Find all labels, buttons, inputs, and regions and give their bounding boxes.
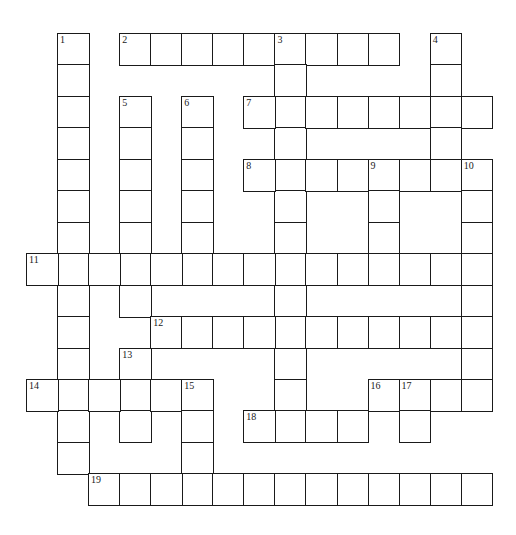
crossword-cell[interactable] — [150, 473, 183, 506]
crossword-cell[interactable] — [368, 96, 401, 129]
crossword-cell[interactable] — [430, 316, 463, 349]
crossword-cell[interactable] — [305, 316, 338, 349]
crossword-cell[interactable] — [119, 253, 152, 286]
crossword-cell[interactable]: 12 — [150, 316, 183, 349]
crossword-cell[interactable]: 11 — [26, 253, 59, 286]
crossword-cell[interactable] — [181, 127, 214, 160]
crossword-cell[interactable] — [337, 473, 370, 506]
crossword-cell[interactable] — [181, 253, 214, 286]
crossword-cell[interactable] — [57, 96, 90, 129]
crossword-cell[interactable] — [57, 222, 90, 255]
crossword-cell[interactable] — [88, 379, 121, 412]
crossword-cell[interactable] — [430, 253, 463, 286]
crossword-cell[interactable] — [305, 473, 338, 506]
crossword-cell[interactable] — [119, 190, 152, 223]
crossword-cell[interactable] — [119, 159, 152, 192]
crossword-cell[interactable] — [57, 190, 90, 223]
crossword-cell[interactable] — [305, 96, 338, 129]
crossword-cell[interactable]: 14 — [26, 379, 59, 412]
crossword-cell[interactable] — [337, 33, 370, 66]
crossword-cell[interactable] — [274, 64, 307, 97]
crossword-cell[interactable] — [337, 96, 370, 129]
crossword-cell[interactable] — [368, 190, 401, 223]
crossword-cell[interactable] — [368, 253, 401, 286]
crossword-cell[interactable]: 10 — [461, 159, 494, 192]
crossword-cell[interactable] — [57, 379, 90, 412]
crossword-cell[interactable] — [181, 190, 214, 223]
crossword-cell[interactable] — [399, 316, 432, 349]
crossword-cell[interactable] — [461, 348, 494, 381]
crossword-cell[interactable]: 4 — [430, 33, 463, 66]
crossword-cell[interactable] — [119, 127, 152, 160]
crossword-cell[interactable] — [212, 33, 245, 66]
crossword-cell[interactable]: 5 — [119, 96, 152, 129]
crossword-cell[interactable] — [212, 253, 245, 286]
crossword-cell[interactable] — [181, 473, 214, 506]
crossword-cell[interactable] — [399, 96, 432, 129]
crossword-cell[interactable] — [461, 253, 494, 286]
crossword-cell[interactable] — [181, 442, 214, 475]
crossword-cell[interactable]: 3 — [274, 33, 307, 66]
crossword-cell[interactable] — [337, 410, 370, 443]
crossword-cell[interactable] — [399, 473, 432, 506]
crossword-cell[interactable] — [181, 410, 214, 443]
crossword-cell[interactable] — [212, 473, 245, 506]
crossword-cell[interactable]: 6 — [181, 96, 214, 129]
crossword-cell[interactable] — [274, 316, 307, 349]
crossword-cell[interactable]: 7 — [243, 96, 276, 129]
crossword-cell[interactable] — [150, 33, 183, 66]
crossword-cell[interactable]: 17 — [399, 379, 432, 412]
crossword-cell[interactable] — [368, 473, 401, 506]
crossword-cell[interactable] — [88, 253, 121, 286]
crossword-cell[interactable] — [274, 473, 307, 506]
crossword-cell[interactable] — [305, 253, 338, 286]
crossword-cell[interactable] — [57, 253, 90, 286]
crossword-cell[interactable] — [57, 316, 90, 349]
crossword-cell[interactable] — [243, 316, 276, 349]
crossword-cell[interactable] — [461, 222, 494, 255]
crossword-cell[interactable] — [119, 285, 152, 318]
crossword-cell[interactable] — [119, 473, 152, 506]
crossword-cell[interactable] — [57, 159, 90, 192]
crossword-cell[interactable] — [57, 285, 90, 318]
crossword-cell[interactable] — [181, 222, 214, 255]
crossword-cell[interactable] — [399, 159, 432, 192]
crossword-cell[interactable]: 13 — [119, 348, 152, 381]
crossword-cell[interactable] — [212, 316, 245, 349]
crossword-cell[interactable] — [399, 253, 432, 286]
crossword-cell[interactable] — [274, 410, 307, 443]
crossword-cell[interactable] — [274, 253, 307, 286]
crossword-cell[interactable] — [274, 285, 307, 318]
crossword-cell[interactable] — [430, 473, 463, 506]
crossword-cell[interactable] — [274, 379, 307, 412]
crossword-cell[interactable] — [274, 159, 307, 192]
crossword-cell[interactable] — [337, 253, 370, 286]
crossword-cell[interactable] — [150, 253, 183, 286]
crossword-cell[interactable] — [461, 379, 494, 412]
crossword-cell[interactable] — [430, 159, 463, 192]
crossword-cell[interactable] — [305, 33, 338, 66]
crossword-cell[interactable]: 19 — [88, 473, 121, 506]
crossword-cell[interactable] — [430, 379, 463, 412]
crossword-cell[interactable] — [399, 410, 432, 443]
crossword-cell[interactable]: 2 — [119, 33, 152, 66]
crossword-cell[interactable] — [461, 316, 494, 349]
crossword-cell[interactable] — [461, 190, 494, 223]
crossword-cell[interactable] — [57, 410, 90, 443]
crossword-cell[interactable] — [337, 159, 370, 192]
crossword-cell[interactable] — [274, 222, 307, 255]
crossword-cell[interactable] — [274, 190, 307, 223]
crossword-cell[interactable] — [243, 253, 276, 286]
crossword-cell[interactable] — [119, 379, 152, 412]
crossword-cell[interactable] — [57, 442, 90, 475]
crossword-cell[interactable] — [274, 127, 307, 160]
crossword-cell[interactable] — [274, 348, 307, 381]
crossword-cell[interactable] — [243, 473, 276, 506]
crossword-cell[interactable]: 16 — [368, 379, 401, 412]
crossword-cell[interactable]: 8 — [243, 159, 276, 192]
crossword-cell[interactable] — [461, 473, 494, 506]
crossword-cell[interactable] — [368, 222, 401, 255]
crossword-cell[interactable] — [430, 127, 463, 160]
crossword-cell[interactable] — [119, 410, 152, 443]
crossword-cell[interactable] — [305, 159, 338, 192]
